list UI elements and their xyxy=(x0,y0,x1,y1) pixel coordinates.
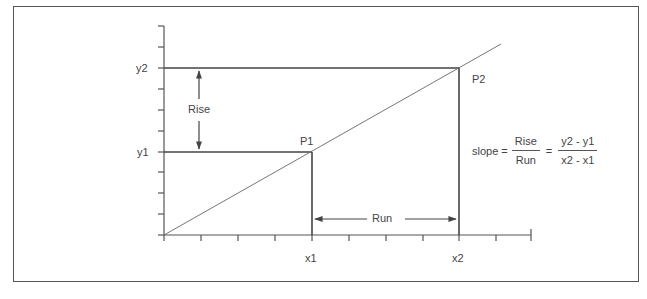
p1-label: P1 xyxy=(300,136,313,147)
rise-over-run-fraction: Rise Run xyxy=(512,135,540,166)
x2-label: x2 xyxy=(452,253,464,264)
x1-label: x1 xyxy=(305,253,317,264)
y2-label: y2 xyxy=(136,63,148,74)
fraction-numerator: y2 - y1 xyxy=(558,135,597,151)
x-axis xyxy=(164,229,531,241)
fraction-numerator: Rise xyxy=(512,135,540,151)
y1-label: y1 xyxy=(137,147,149,158)
run-label: Run xyxy=(372,213,392,224)
coordinate-fraction: y2 - y1 x2 - x1 xyxy=(558,135,597,166)
formula-lhs: slope = xyxy=(472,145,508,157)
fraction-denominator: Run xyxy=(513,151,539,166)
rise-label: Rise xyxy=(188,104,210,115)
fraction-denominator: x2 - x1 xyxy=(558,151,597,166)
equals-sign: = xyxy=(546,145,552,157)
y-axis xyxy=(158,26,164,235)
slope-formula: slope = Rise Run = y2 - y1 x2 - x1 xyxy=(472,135,601,166)
slope-line xyxy=(164,44,501,235)
p2-label: P2 xyxy=(472,74,485,85)
